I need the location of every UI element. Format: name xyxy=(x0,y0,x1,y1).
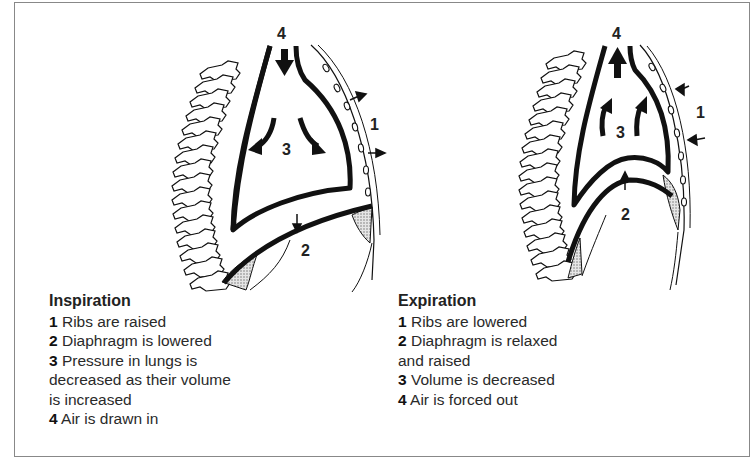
step-3-cont: decreased as their volume xyxy=(49,370,349,390)
step-3-cont: is increased xyxy=(49,390,349,410)
chest-wall xyxy=(311,45,374,280)
step-2: 2 Diaphragm is lowered xyxy=(49,331,349,351)
inspiration-illustration: 4 3 1 2 xyxy=(172,25,385,292)
step-3: 3 Volume is decreased xyxy=(398,370,698,390)
marker-1: 1 xyxy=(370,116,379,133)
spine-icon xyxy=(172,61,240,291)
arrow-up-icon xyxy=(608,47,627,78)
marker-2: 2 xyxy=(301,242,310,259)
marker-3: 3 xyxy=(282,141,291,158)
step-4: 4 Air is drawn in xyxy=(49,409,349,429)
expiration-illustration: 4 3 1 2 xyxy=(519,25,705,290)
small-arrows-icon xyxy=(621,84,705,190)
expiration-title: Expiration xyxy=(398,291,698,311)
marker-4: 4 xyxy=(277,25,286,42)
inspiration-title: Inspiration xyxy=(49,291,349,311)
step-1: 1 Ribs are lowered xyxy=(398,312,698,332)
marker-1: 1 xyxy=(696,104,705,121)
marker-2: 2 xyxy=(621,206,630,223)
step-3: 3 Pressure in lungs is xyxy=(49,351,349,371)
step-2: 2 Diaphragm is relaxed xyxy=(398,331,698,351)
step-1: 1 Ribs are raised xyxy=(49,312,349,332)
step-4: 4 Air is forced out xyxy=(398,390,698,410)
arrow-down-icon xyxy=(275,49,294,76)
inspiration-caption: Inspiration 1 Ribs are raised 2 Diaphrag… xyxy=(49,291,349,429)
expiration-caption: Expiration 1 Ribs are lowered 2 Diaphrag… xyxy=(398,291,698,409)
step-2-cont: and raised xyxy=(398,351,698,371)
marker-4: 4 xyxy=(612,25,621,42)
marker-3: 3 xyxy=(616,124,625,141)
